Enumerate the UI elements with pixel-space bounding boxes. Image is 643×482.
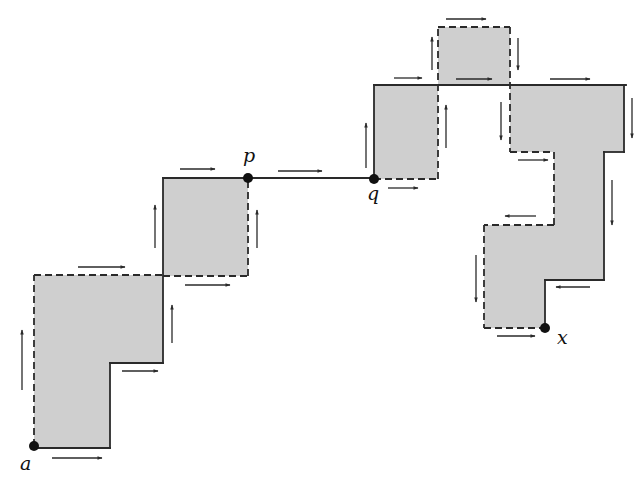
region-4 bbox=[438, 27, 510, 85]
region-2 bbox=[163, 178, 248, 276]
dashed-boundary-edges bbox=[34, 27, 554, 446]
region-5 bbox=[484, 85, 624, 328]
region-3 bbox=[374, 85, 438, 179]
point-x-label: x bbox=[557, 326, 568, 348]
point-a-label: a bbox=[20, 452, 31, 474]
point-p-label: p bbox=[243, 144, 255, 166]
path-diagram: apqx bbox=[0, 0, 643, 482]
point-q-label: q bbox=[367, 182, 379, 204]
point-x-dot bbox=[540, 323, 550, 333]
point-p-dot bbox=[243, 173, 253, 183]
shaded-regions bbox=[34, 27, 624, 448]
region-1 bbox=[34, 275, 163, 448]
point-a-dot bbox=[29, 441, 39, 451]
